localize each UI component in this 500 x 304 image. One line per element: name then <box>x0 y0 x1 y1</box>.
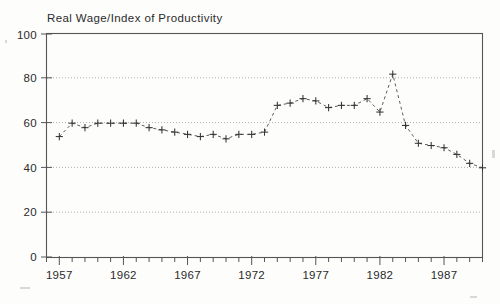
x-tick-label-1987: 1987 <box>431 269 458 281</box>
x-tick-label-1957: 1957 <box>46 269 73 281</box>
y-tick-label-0: 0 <box>30 251 37 263</box>
x-tick-label-1977: 1977 <box>302 269 329 281</box>
x-tick-label-1967: 1967 <box>174 269 201 281</box>
chart-figure: Real Wage/Index of Productivity 0 20 40 … <box>0 0 500 304</box>
x-tick-label-1972: 1972 <box>238 269 265 281</box>
line-chart: Real Wage/Index of Productivity 0 20 40 … <box>0 0 500 304</box>
y-tick-label-100: 100 <box>17 29 37 41</box>
y-tick-label-80: 80 <box>24 72 37 84</box>
y-tick-label-20: 20 <box>24 206 37 218</box>
chart-title: Real Wage/Index of Productivity <box>47 12 223 24</box>
x-tick-label-1982: 1982 <box>367 269 394 281</box>
y-tick-label-60: 60 <box>24 117 37 129</box>
chart-background <box>0 0 500 304</box>
y-tick-label-40: 40 <box>24 162 37 174</box>
x-tick-label-1962: 1962 <box>110 269 137 281</box>
